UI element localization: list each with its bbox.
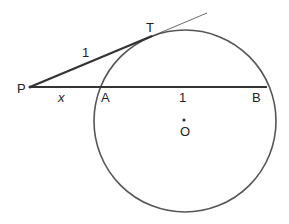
point-P-dot [29, 86, 32, 89]
tangent-extension [150, 13, 207, 37]
label-PT-length: 1 [82, 45, 89, 60]
label-A: A [101, 90, 110, 105]
label-PA-length: x [57, 90, 65, 105]
label-O: O [180, 124, 190, 139]
label-T: T [146, 20, 154, 35]
label-P: P [17, 81, 26, 96]
diagram-canvas: P T A B O 1 x 1 [0, 0, 289, 224]
segment-PT [30, 36, 152, 87]
center-O-dot [182, 118, 185, 121]
label-AB-length: 1 [179, 90, 186, 105]
label-B: B [252, 90, 261, 105]
